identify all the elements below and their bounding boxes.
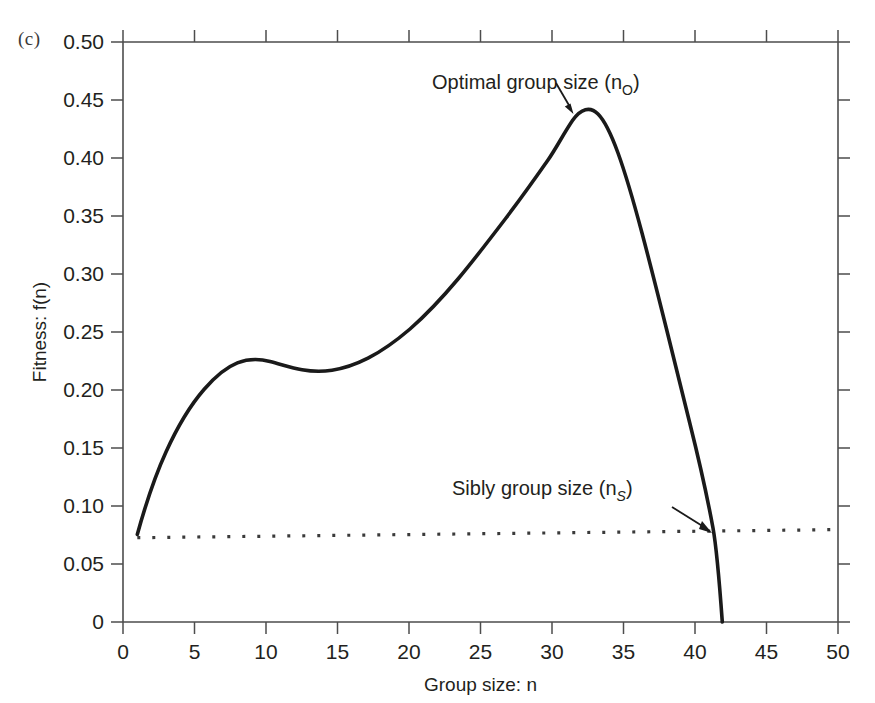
annotation-sibly-group-size: Sibly group size (nS) bbox=[452, 477, 712, 533]
annotation-sibly-label: Sibly group size (nS) bbox=[452, 477, 633, 504]
x-tick-label: 5 bbox=[189, 640, 201, 663]
y-tick-label: 0.40 bbox=[63, 146, 104, 169]
top-axis-ticks bbox=[123, 30, 838, 42]
y-tick-label: 0.10 bbox=[63, 494, 104, 517]
x-tick-label: 35 bbox=[612, 640, 635, 663]
annotation-sibly-tail: ) bbox=[626, 477, 633, 499]
y-tick-label: 0.05 bbox=[63, 552, 104, 575]
figure-panel-c: (c) bbox=[0, 0, 875, 703]
y-tick-label: 0.25 bbox=[63, 320, 104, 343]
fitness-curve bbox=[137, 109, 722, 622]
x-tick-label: 45 bbox=[755, 640, 778, 663]
y-tick-label: 0.35 bbox=[63, 204, 104, 227]
plot-frame bbox=[123, 42, 838, 622]
right-axis-ticks bbox=[838, 42, 850, 622]
annotation-sibly-arrow-line bbox=[672, 507, 704, 527]
x-tick-label: 30 bbox=[540, 640, 563, 663]
x-tick-label: 15 bbox=[326, 640, 349, 663]
x-tick-label: 50 bbox=[826, 640, 849, 663]
annotation-sibly-text: Sibly group size (n bbox=[452, 477, 617, 499]
y-tick-label: 0.30 bbox=[63, 262, 104, 285]
y-tick-label: 0.45 bbox=[63, 88, 104, 111]
x-tick-label: 0 bbox=[117, 640, 129, 663]
y-tick-label: 0.20 bbox=[63, 378, 104, 401]
panel-label: (c) bbox=[18, 28, 41, 50]
annotation-optimal-label: Optimal group size (nO) bbox=[432, 71, 640, 98]
annotation-sibly-arrow-head bbox=[699, 521, 712, 533]
annotation-optimal-text: Optimal group size (n bbox=[432, 71, 622, 93]
x-tick-label: 40 bbox=[683, 640, 706, 663]
y-tick-labels: 0.50 0.45 0.40 0.35 0.30 0.25 0.20 0.15 … bbox=[63, 30, 104, 633]
x-tick-labels: 0 5 10 15 20 25 30 35 40 45 50 bbox=[117, 640, 850, 663]
annotation-optimal-tail: ) bbox=[633, 71, 640, 93]
x-tick-label: 25 bbox=[469, 640, 492, 663]
y-tick-label: 0 bbox=[92, 610, 104, 633]
x-tick-label: 10 bbox=[254, 640, 277, 663]
y-tick-label: 0.15 bbox=[63, 436, 104, 459]
sibly-baseline-dotted-line bbox=[137, 530, 838, 538]
x-axis-ticks bbox=[123, 622, 838, 634]
annotation-optimal-arrow-head bbox=[565, 104, 574, 115]
annotation-optimal-subscript: O bbox=[622, 82, 633, 98]
annotation-optimal-group-size: Optimal group size (nO) bbox=[432, 71, 640, 114]
x-tick-label: 20 bbox=[397, 640, 420, 663]
y-axis-ticks bbox=[111, 42, 123, 622]
y-tick-label: 0.50 bbox=[63, 30, 104, 53]
fitness-vs-group-size-chart: 0.50 0.45 0.40 0.35 0.30 0.25 0.20 0.15 … bbox=[0, 0, 875, 703]
x-axis-title: Group size: n bbox=[424, 674, 537, 695]
y-axis-title: Fitness: f(n) bbox=[29, 282, 50, 382]
